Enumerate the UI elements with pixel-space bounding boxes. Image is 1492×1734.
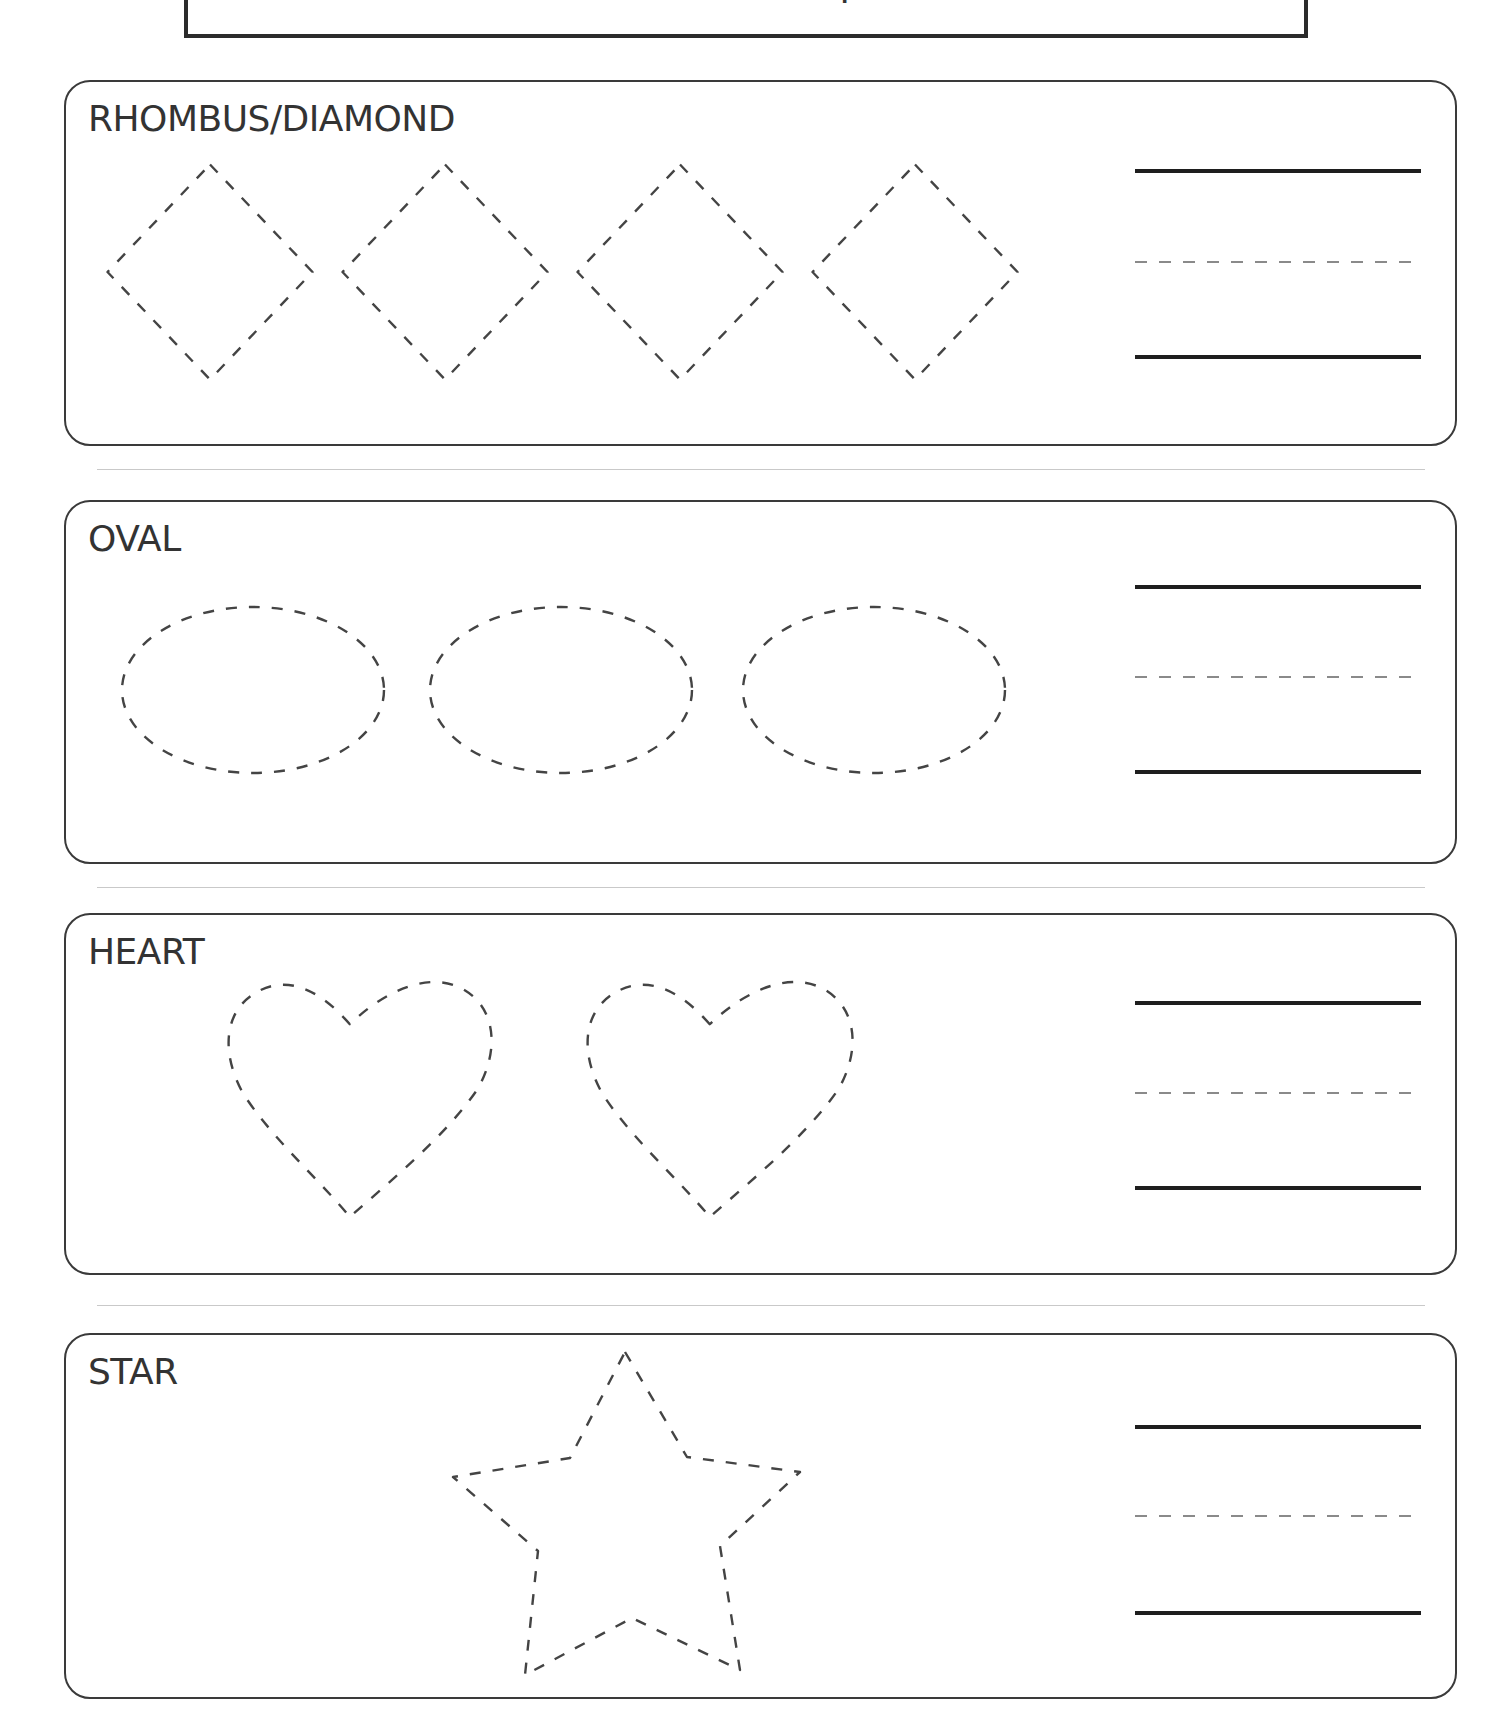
writing-line-top	[1135, 169, 1421, 173]
section-divider	[97, 469, 1425, 470]
writing-line-bottom	[1135, 355, 1421, 359]
section-divider	[97, 887, 1425, 888]
section-rhombus: RHOMBUS/DIAMOND	[64, 80, 1457, 446]
writing-line-top	[1135, 585, 1421, 589]
section-label-rhombus: RHOMBUS/DIAMOND	[88, 98, 455, 139]
writing-line-top	[1135, 1425, 1421, 1429]
section-label-star: STAR	[88, 1351, 178, 1392]
section-oval: OVAL	[64, 500, 1457, 864]
writing-line-bottom	[1135, 1611, 1421, 1615]
writing-line-mid	[1135, 1092, 1421, 1094]
writing-line-bottom	[1135, 770, 1421, 774]
writing-line-bottom	[1135, 1186, 1421, 1190]
writing-line-mid	[1135, 676, 1421, 678]
section-label-oval: OVAL	[88, 518, 181, 559]
section-label-heart: HEART	[88, 931, 204, 972]
worksheet-title-box: Trace the shapes	[184, 0, 1308, 38]
worksheet-title: Trace the shapes	[188, 0, 1304, 4]
section-divider	[97, 1305, 1425, 1306]
writing-line-top	[1135, 1001, 1421, 1005]
writing-line-mid	[1135, 1515, 1421, 1517]
section-heart: HEART	[64, 913, 1457, 1275]
writing-line-mid	[1135, 261, 1421, 263]
